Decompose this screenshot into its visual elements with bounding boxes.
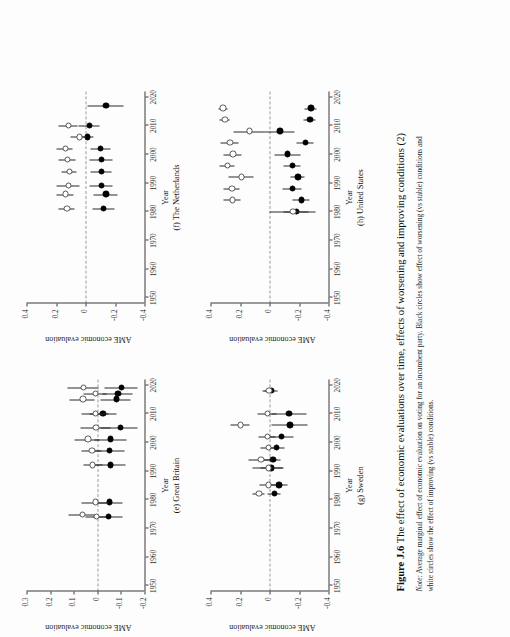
panel-h-x-tick xyxy=(329,210,332,211)
panel-f-y-tick xyxy=(26,303,27,306)
panel-g-white-circle-marker xyxy=(265,444,271,450)
panel-e-plot-area: 0.30.20.10-0.1-0.21950196019701980199020… xyxy=(26,379,144,591)
panel-h-zero-reference-line xyxy=(269,91,270,303)
panel-h-y-tick-label: -0.2 xyxy=(294,309,302,337)
panel-h-black-circle-marker xyxy=(289,185,295,191)
panel-h-white-circle-marker xyxy=(289,208,295,214)
panel-g-y-tick xyxy=(210,591,211,594)
panel-g-y-tick-label: 0 xyxy=(264,597,272,625)
panel-e-x-axis xyxy=(144,379,145,591)
panel-h-y-tick xyxy=(269,303,270,306)
panel-e-y-axis-title: AME economic evaluation xyxy=(45,622,131,631)
panel-h-x-tick-label: 1970 xyxy=(333,226,341,254)
panel-g-black-circle-marker xyxy=(285,410,291,416)
panel-g-x-tick xyxy=(329,441,332,442)
panel-g-x-tick-label: 2000 xyxy=(333,428,341,456)
panel-h-white-circle-marker xyxy=(219,105,225,111)
panel-e-x-tick-label: 1990 xyxy=(149,457,157,485)
panel-f-x-tick-label: 1990 xyxy=(149,169,157,197)
panel-e-y-tick-label: 0.3 xyxy=(21,597,29,625)
panel-g-x-tick xyxy=(329,556,332,557)
panel-h-x-tick xyxy=(329,182,332,183)
panel-g-y-tick-label: 0.2 xyxy=(235,597,243,625)
panel-f-black-circle-marker xyxy=(98,182,104,188)
panel-e-y-tick-label: -0.2 xyxy=(139,597,147,625)
panel-h-y-tick-label: 0 xyxy=(264,309,272,337)
panel-h-black-circle-marker xyxy=(294,173,300,179)
panel-f-y-tick xyxy=(85,303,86,306)
panel-e-x-axis-title: Year xyxy=(160,379,169,591)
panel-g-x-tick xyxy=(329,470,332,471)
panel-e-y-tick xyxy=(50,591,51,594)
panel-g-white-circle-marker xyxy=(264,410,270,416)
panel-f-x-tick xyxy=(145,268,148,269)
panel-f-y-tick-label: -0.4 xyxy=(139,309,147,337)
panel-f-white-circle-marker xyxy=(65,182,71,188)
panel-e: 0.30.20.10-0.1-0.21950196019701980199020… xyxy=(26,379,144,591)
panel-f-x-tick xyxy=(145,296,148,297)
panel-e-x-tick-label: 2020 xyxy=(149,371,157,399)
panel-e-x-tick-label: 1950 xyxy=(149,571,157,599)
rotated-page-content: 0.30.20.10-0.1-0.21950196019701980199020… xyxy=(0,0,510,637)
panel-g-black-circle-marker xyxy=(275,481,281,487)
panel-h-white-circle-marker xyxy=(229,150,235,156)
panel-f-white-circle-marker xyxy=(62,145,68,151)
panel-g-white-circle-marker xyxy=(237,421,243,427)
panel-h-x-tick-label: 2020 xyxy=(333,83,341,111)
panel-g-x-tick-label: 1980 xyxy=(333,485,341,513)
panel-f-x-tick xyxy=(145,153,148,154)
panel-f-x-tick-label: 2000 xyxy=(149,140,157,168)
panel-f-black-circle-marker xyxy=(98,156,104,162)
panel-h-white-circle-marker xyxy=(224,162,230,168)
panel-f-white-circle-marker xyxy=(64,156,70,162)
panel-g-y-tick-label: 0.4 xyxy=(205,597,213,625)
panel-h-plot-area: 0.40.20-0.2-0.41950196019701980199020002… xyxy=(210,91,328,303)
panel-e-white-circle-marker xyxy=(92,424,98,430)
figure-sheet: 0.30.20.10-0.1-0.21950196019701980199020… xyxy=(0,0,510,637)
panel-e-white-circle-marker xyxy=(89,461,95,467)
panel-g-x-tick xyxy=(329,412,332,413)
panel-f-x-tick-label: 1970 xyxy=(149,226,157,254)
panel-g-x-tick-label: 1990 xyxy=(333,457,341,485)
caption-title-text: The effect of economic evaluations over … xyxy=(394,133,405,543)
panel-g-y-tick-label: -0.4 xyxy=(323,597,331,625)
panel-e-y-tick-label: 0 xyxy=(92,597,100,625)
panel-g-black-circle-marker xyxy=(271,490,277,496)
panel-f-y-tick-label: 0.4 xyxy=(21,309,29,337)
panel-h-x-tick-label: 1950 xyxy=(333,283,341,311)
panel-h-x-tick xyxy=(329,153,332,154)
panel-f-x-tick-label: 1950 xyxy=(149,283,157,311)
panel-e-white-circle-marker xyxy=(79,395,85,401)
panel-g-white-circle-marker xyxy=(265,387,271,393)
panel-g-x-axis-title: Year xyxy=(344,379,353,591)
panel-g-white-circle-marker xyxy=(255,490,261,496)
panel-h-white-circle-marker xyxy=(228,185,234,191)
panel-h-black-circle-marker xyxy=(298,196,304,202)
panel-f-x-tick xyxy=(145,124,148,125)
panel-f-x-tick xyxy=(145,96,148,97)
panel-h-white-circle-marker xyxy=(238,173,244,179)
panel-e-x-tick xyxy=(145,584,148,585)
panel-h-y-tick xyxy=(240,303,241,306)
panel-e-black-circle-marker xyxy=(117,424,123,430)
panel-h-black-circle-marker xyxy=(276,127,282,133)
note-label: Note: xyxy=(414,575,423,591)
panel-g-x-tick-label: 2010 xyxy=(333,399,341,427)
panel-f-y-tick-label: 0 xyxy=(80,309,88,337)
panel-f: 0.40.20-0.2-0.41950196019701980199020002… xyxy=(26,91,144,303)
panel-f-title: (f) The Netherlands xyxy=(171,91,180,303)
panel-f-x-tick-label: 1980 xyxy=(149,197,157,225)
panel-g-plot-area: 0.40.20-0.2-0.41950196019701980199020002… xyxy=(210,379,328,591)
panel-h-black-circle-marker xyxy=(306,116,312,122)
panel-h-x-axis xyxy=(328,91,329,303)
panel-e-x-tick-label: 2000 xyxy=(149,428,157,456)
panel-f-x-tick xyxy=(145,239,148,240)
panel-f-x-tick-label: 1960 xyxy=(149,255,157,283)
panel-h-x-axis-title: Year xyxy=(344,91,353,303)
panel-e-x-tick-label: 1970 xyxy=(149,514,157,542)
panel-f-black-circle-marker xyxy=(86,122,92,128)
panel-e-white-circle-marker xyxy=(88,447,94,453)
panel-e-white-circle-marker xyxy=(92,410,98,416)
panel-f-y-tick-label: -0.2 xyxy=(110,309,118,337)
panel-h-x-tick-label: 1960 xyxy=(333,255,341,283)
